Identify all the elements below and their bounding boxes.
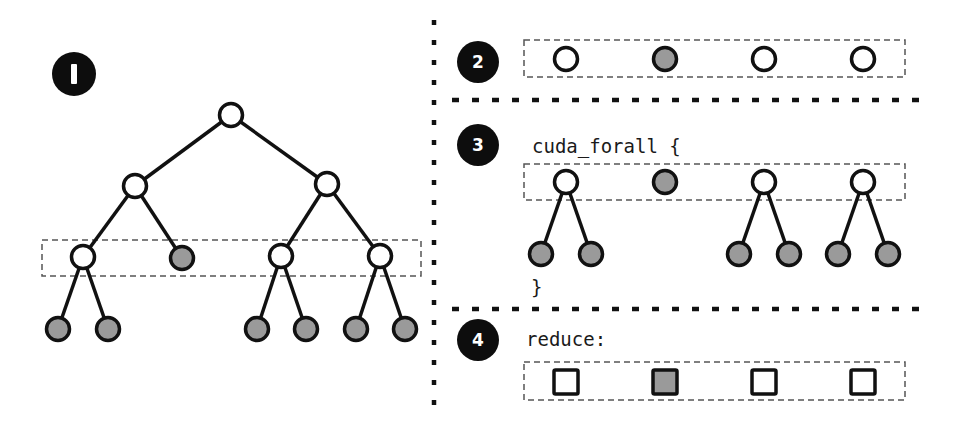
code-reduce-label: reduce: (526, 328, 606, 350)
tree-node-root (220, 104, 243, 127)
step-badge-3: 3 (457, 124, 499, 166)
panel-2: 2 (457, 40, 905, 83)
tree-node-l3a (72, 246, 95, 269)
tree-node-leaf4 (295, 318, 318, 341)
tree-node-l3c (270, 245, 293, 268)
tree-edge (327, 184, 380, 256)
badge-2-label: 2 (472, 52, 484, 72)
step-badge-4: 4 (457, 319, 499, 361)
tree-nodes (47, 104, 417, 341)
panel-3-items (530, 171, 900, 266)
panel-3-child-node (827, 243, 850, 266)
panel-2-array-box (524, 40, 905, 77)
tree-node-leaf5 (345, 318, 368, 341)
panel-2-node (654, 48, 677, 71)
panel-1-highlight-box (42, 240, 421, 276)
panel-3-array-box (524, 164, 905, 200)
tree-edge (135, 115, 231, 186)
panel-3-node (852, 171, 875, 194)
panel-3-child-node (580, 243, 603, 266)
tree-edges (58, 115, 405, 329)
panel-3-node (753, 171, 776, 194)
step-badge-1 (52, 52, 96, 96)
panel-4-items (554, 370, 875, 394)
code-cuda-forall-open: cuda_forall { (532, 135, 681, 158)
code-cuda-forall-close: } (531, 276, 542, 298)
panel-3-child-node (530, 243, 553, 266)
step-badge-2: 2 (457, 41, 499, 83)
badge-3-label: 3 (472, 135, 484, 155)
panel-4-result-square (653, 370, 677, 394)
panel-2-node (852, 48, 875, 71)
badge-1-glyph (71, 64, 77, 84)
panel-4-result-square (752, 370, 776, 394)
panel-1 (42, 52, 421, 341)
panel-4: 4 reduce: (457, 319, 905, 400)
tree-node-leaf1 (47, 318, 70, 341)
tree-node-leaf6 (394, 318, 417, 341)
tree-edge (231, 115, 327, 184)
tree-node-l2b (316, 173, 339, 196)
tree-node-leaf3 (246, 318, 269, 341)
panel-3-child-node (728, 243, 751, 266)
panel-3-child-node (877, 243, 900, 266)
diagram-canvas: 2 3 cuda_forall { } 4 reduce: (0, 0, 967, 443)
panel-3-child-node (778, 243, 801, 266)
tree-node-l3d (369, 245, 392, 268)
badge-4-label: 4 (472, 330, 484, 350)
panel-4-result-square (554, 370, 578, 394)
panel-2-items (555, 48, 875, 71)
panel-3-node (555, 171, 578, 194)
panel-2-node (555, 48, 578, 71)
panel-3-node (654, 171, 677, 194)
panel-3: 3 cuda_forall { } (457, 124, 905, 298)
panel-4-result-square (851, 370, 875, 394)
panel-4-array-box (524, 362, 905, 400)
tree-node-l2a (124, 175, 147, 198)
tree-node-leaf2 (97, 318, 120, 341)
tree-node-l3b (171, 247, 194, 270)
panel-2-node (753, 48, 776, 71)
